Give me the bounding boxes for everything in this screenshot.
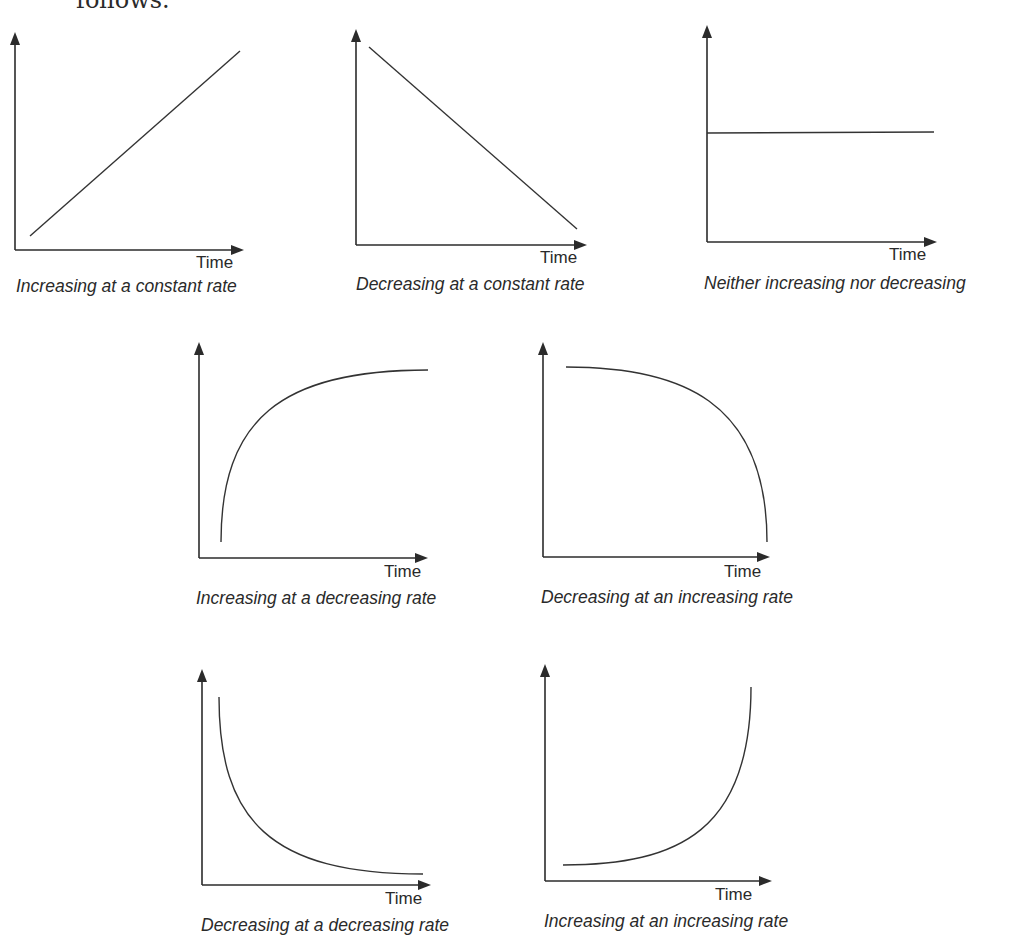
trend-line (30, 51, 240, 236)
x-axis-label: Time (724, 562, 761, 581)
panel-caption: Neither increasing nor decreasing (704, 273, 966, 293)
panel-caption: Decreasing at a constant rate (356, 274, 585, 294)
panel-caption: Increasing at a decreasing rate (196, 588, 437, 608)
y-axis-arrow-icon (702, 25, 712, 38)
y-axis-arrow-icon (538, 342, 548, 355)
trend-curve (219, 697, 423, 874)
x-axis-label: Time (384, 562, 421, 581)
y-axis-arrow-icon (194, 342, 204, 355)
y-axis-arrow-icon (10, 32, 20, 45)
trend-curve (566, 367, 767, 542)
panel-flat: Time Neither increasing nor decreasing (702, 25, 966, 293)
panel-caption: Decreasing at a decreasing rate (201, 915, 449, 935)
x-axis-label: Time (540, 248, 577, 267)
panel-caption: Decreasing at an increasing rate (541, 587, 793, 607)
panel-increasing-decreasing-rate: Time Increasing at a decreasing rate (194, 342, 437, 608)
x-axis-label: Time (196, 253, 233, 272)
panel-increasing-constant: Time Increasing at a constant rate (10, 32, 244, 296)
x-axis-arrow-icon (759, 876, 772, 886)
y-axis-arrow-icon (540, 664, 550, 677)
panel-caption: Increasing at a constant rate (16, 276, 237, 296)
panel-decreasing-constant: Time Decreasing at a constant rate (351, 29, 587, 294)
y-axis-arrow-icon (351, 29, 361, 42)
panel-decreasing-decreasing-rate: Time Decreasing at a decreasing rate (197, 669, 449, 935)
panel-increasing-increasing-rate: Time Increasing at an increasing rate (540, 664, 788, 931)
x-axis-label: Time (715, 885, 752, 904)
trend-line (369, 47, 577, 229)
y-axis-arrow-icon (197, 669, 207, 682)
rate-of-change-diagram: Time Increasing at a constant rate Time … (0, 0, 1033, 935)
panel-decreasing-increasing-rate: Time Decreasing at an increasing rate (538, 342, 793, 607)
trend-curve (563, 687, 751, 865)
x-axis-arrow-icon (757, 552, 770, 562)
x-axis-label: Time (385, 889, 422, 908)
panel-caption: Increasing at an increasing rate (544, 911, 788, 931)
x-axis-label: Time (889, 245, 926, 264)
trend-curve (221, 370, 428, 542)
trend-line (707, 132, 934, 133)
